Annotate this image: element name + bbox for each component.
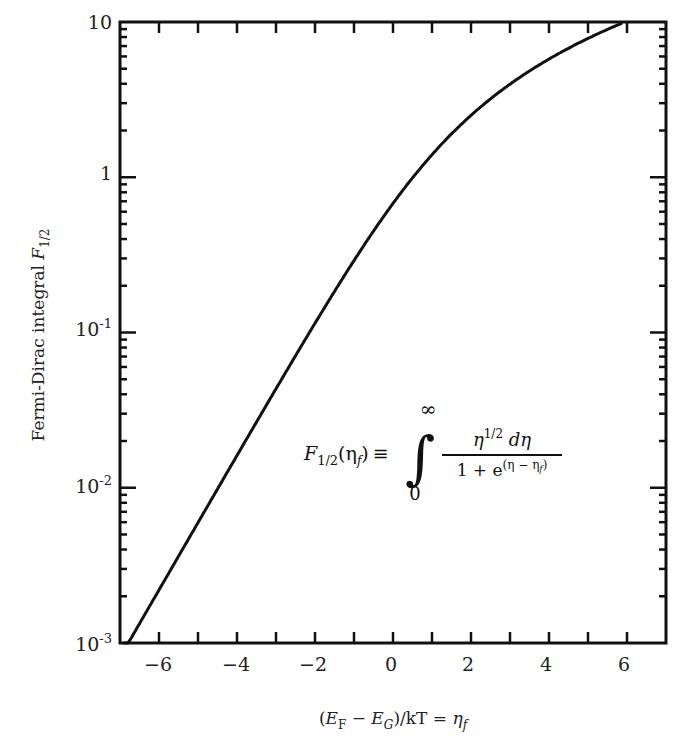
- y-tick-labels: 10 1 10-1 10-2 10-3: [75, 11, 112, 655]
- x-tick-label: 4: [540, 653, 552, 675]
- x-axis-title: (EF − EG)/kT = ηf: [319, 708, 470, 732]
- y-tick-label-1e-3: 10-3: [75, 631, 112, 655]
- chart-canvas: −6 −4 −2 0 2 4 6 10 1 10-1 10-2 10-3 Fer…: [0, 0, 686, 749]
- integral-sign: ∫: [405, 424, 435, 492]
- integral-lower-limit: 0: [409, 483, 420, 504]
- x-tick-label: −2: [299, 653, 327, 675]
- y-axis-ticks: [120, 29, 666, 596]
- formula-lhs: F1/2(ηf)≡: [303, 442, 389, 468]
- y-tick-label-1e-2: 10-2: [75, 473, 112, 497]
- fermi-dirac-curve: [124, 24, 621, 644]
- y-tick-label-1: 1: [100, 162, 112, 184]
- x-tick-label: −6: [144, 653, 172, 675]
- x-tick-label: 2: [462, 653, 474, 675]
- x-tick-labels: −6 −4 −2 0 2 4 6: [144, 653, 630, 675]
- x-tick-label: −4: [222, 653, 250, 675]
- formula-annotation: F1/2(ηf)≡ ∫ ∞ 0 η1/2 dη 1 + e(η − ηf): [303, 397, 562, 504]
- formula-denominator: 1 + e(η − ηf): [457, 458, 548, 480]
- x-tick-label: 6: [618, 653, 630, 675]
- plot-frame: [120, 22, 666, 643]
- integral-upper-limit: ∞: [420, 397, 437, 421]
- x-tick-label: 0: [385, 653, 397, 675]
- y-tick-label-10: 10: [88, 11, 112, 33]
- y-axis-title: Fermi-Dirac integral F1/2: [28, 229, 52, 442]
- formula-numerator: η1/2 dη: [473, 427, 531, 450]
- y-tick-label-1e-1: 10-1: [75, 316, 112, 340]
- x-axis-ticks: [159, 22, 627, 643]
